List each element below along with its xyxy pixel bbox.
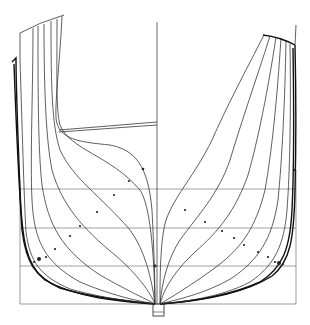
body-plan-drawing bbox=[0, 0, 310, 325]
waterlines bbox=[20, 189, 296, 266]
stations-left bbox=[12, 15, 155, 304]
keel bbox=[153, 304, 164, 316]
deck-line bbox=[59, 122, 157, 132]
